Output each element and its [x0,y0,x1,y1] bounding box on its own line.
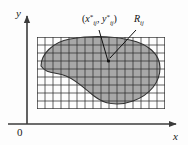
sample-point-label: (x*ij, y*ij) [82,13,117,26]
riemann-sum-figure: y x 0 [0,0,188,145]
annotation-labels: (x*ij, y*ij) Rij [82,13,144,26]
figure-canvas: y x 0 [0,0,188,145]
subrectangle-sub: ij [140,19,144,26]
x-axis-label: x [172,130,178,142]
region-group [41,37,160,104]
shaded-region-fill [41,37,160,104]
y-axis-label: y [15,7,21,19]
sample-point-dot [107,59,110,62]
subrectangle-r-var: R [133,13,140,24]
sample-point-paren-close: ) [114,13,117,25]
subrectangle-label: Rij [133,13,144,26]
origin-label: 0 [17,126,23,138]
